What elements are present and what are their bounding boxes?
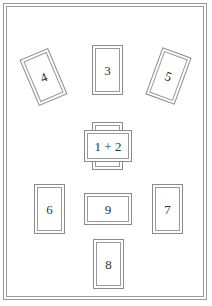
card-8: 8 [93, 239, 124, 289]
card-9-inner: 9 [87, 196, 129, 222]
card-7-label: 7 [164, 203, 171, 216]
card-1-2-label: 1 + 2 [95, 140, 122, 153]
card-8-inner: 8 [96, 242, 121, 286]
card-5-label: 5 [163, 69, 174, 83]
card-6-inner: 6 [37, 187, 62, 231]
card-3-inner: 3 [95, 48, 120, 92]
card-7: 7 [152, 184, 183, 234]
card-7-inner: 7 [155, 187, 180, 231]
card-8-label: 8 [105, 258, 112, 271]
card-2-crossing: 1 + 2 [84, 130, 132, 162]
card-6-label: 6 [46, 203, 53, 216]
card-6: 6 [34, 184, 65, 234]
card-3: 3 [92, 45, 123, 95]
card-3-label: 3 [104, 64, 111, 77]
card-9-label: 9 [105, 203, 112, 216]
card-9: 9 [84, 193, 132, 225]
card-1-2-inner: 1 + 2 [87, 133, 129, 159]
card-4-label: 4 [38, 70, 49, 85]
